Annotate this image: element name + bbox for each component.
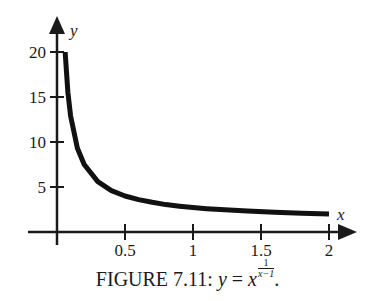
caption-lhs: y	[218, 268, 227, 290]
x-axis-arrow-icon	[338, 224, 357, 240]
y-axis-label: y	[68, 21, 78, 40]
caption-equals: =	[227, 268, 248, 290]
y-tick-label: 10	[29, 133, 46, 152]
y-axis-arrow-icon	[49, 16, 65, 34]
x-tick-label: 1.5	[250, 241, 271, 258]
x-tick-label: 1	[189, 241, 198, 258]
figure-caption: FIGURE 7.11: y = x1x−1.	[0, 258, 375, 291]
x-axis-label: x	[336, 205, 345, 224]
curve-line	[65, 52, 329, 214]
y-tick-label: 5	[38, 178, 47, 197]
caption-exp-den: x−1	[258, 269, 274, 279]
chart: 0.5 1 1.5 2 5 10 15 20 x y	[0, 0, 375, 258]
y-tick-label: 20	[29, 43, 46, 62]
y-tick-label: 15	[29, 88, 46, 107]
caption-base: x	[248, 268, 257, 290]
caption-prefix: FIGURE 7.11:	[96, 268, 218, 290]
caption-suffix: .	[274, 268, 279, 290]
caption-exponent: 1x−1	[258, 258, 274, 279]
x-tick-label: 0.5	[114, 241, 135, 258]
x-tick-label: 2	[325, 241, 334, 258]
